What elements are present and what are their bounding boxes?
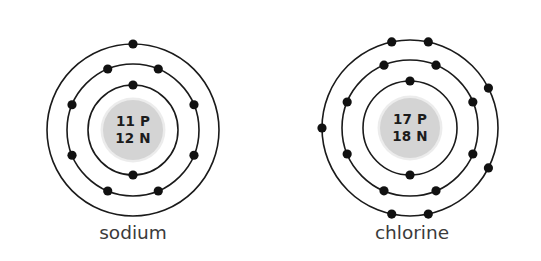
electron-chlorine-shell-3-3 [484,83,493,92]
electron-chlorine-shell-2-7 [379,186,388,195]
atom-caption-sodium: sodium [99,222,167,243]
electron-chlorine-shell-3-4 [317,123,326,132]
diagram-canvas: 11 P12 Nsodium17 P18 Nchlorine [0,0,541,261]
electron-chlorine-shell-3-1 [424,37,433,46]
electron-sodium-shell-2-8 [154,186,163,195]
atom-chlorine: 17 P18 Nchlorine [317,37,498,243]
electron-sodium-shell-2-6 [189,151,198,160]
electron-chlorine-shell-2-1 [431,61,440,70]
nucleus-neutron-label-chlorine: 18 N [392,128,428,144]
electron-chlorine-shell-2-6 [468,149,477,158]
electron-chlorine-shell-1-2 [405,170,414,179]
electron-sodium-shell-3-1 [128,39,137,48]
electron-sodium-shell-1-2 [128,170,137,179]
electron-chlorine-shell-3-6 [387,209,396,218]
electron-sodium-shell-2-4 [67,100,76,109]
electron-chlorine-shell-3-5 [484,163,493,172]
nucleus-proton-label-chlorine: 17 P [393,111,427,127]
atom-sodium: 11 P12 Nsodium [47,39,219,243]
electron-sodium-shell-1-1 [128,80,137,89]
electron-sodium-shell-2-1 [154,64,163,73]
electron-chlorine-shell-2-5 [343,149,352,158]
atom-diagram-svg: 11 P12 Nsodium17 P18 Nchlorine [0,0,541,261]
electron-chlorine-shell-1-1 [405,76,414,85]
electron-chlorine-shell-2-4 [343,97,352,106]
nucleus-neutron-label-sodium: 12 N [115,130,151,146]
electron-sodium-shell-2-3 [189,100,198,109]
atoms-group: 11 P12 Nsodium17 P18 Nchlorine [47,37,498,243]
electron-chlorine-shell-2-3 [468,97,477,106]
electron-chlorine-shell-3-7 [424,209,433,218]
electron-chlorine-shell-2-2 [379,61,388,70]
electron-chlorine-shell-3-2 [387,37,396,46]
electron-sodium-shell-2-5 [67,151,76,160]
atom-caption-chlorine: chlorine [375,222,449,243]
electron-chlorine-shell-2-8 [431,186,440,195]
nucleus-proton-label-sodium: 11 P [116,113,150,129]
electron-sodium-shell-2-7 [103,186,112,195]
electron-sodium-shell-2-2 [103,64,112,73]
